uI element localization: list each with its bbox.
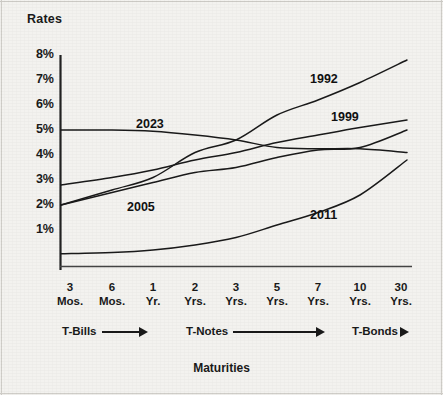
range-arrow-icon <box>399 326 409 338</box>
series-label-2005: 2005 <box>127 200 155 214</box>
instrument-group-label: T-Bills <box>62 325 97 337</box>
x-tick-number: 3 <box>47 280 93 294</box>
x-tick-label: 2Yrs. <box>172 280 218 308</box>
instrument-group-label: T-Bonds <box>352 325 398 337</box>
yield-curve-figure: Rates 8%7%6%5%4%3%2%1% 3Mos.6Mos.1Yr.2Yr… <box>0 0 443 395</box>
x-tick-unit: Yrs. <box>337 294 383 308</box>
x-tick-number: 30 <box>378 280 424 294</box>
x-tick-number: 6 <box>89 280 135 294</box>
series-line-2011 <box>61 160 407 254</box>
x-tick-number: 5 <box>254 280 300 294</box>
x-tick-number: 7 <box>295 280 341 294</box>
x-tick-label: 3Mos. <box>47 280 93 308</box>
x-tick-unit: Yrs. <box>254 294 300 308</box>
x-tick-label: 3Yrs. <box>213 280 259 308</box>
instrument-group-t-bonds: T-Bonds <box>352 325 409 338</box>
series-label-2011: 2011 <box>310 208 337 222</box>
x-tick-unit: Yrs. <box>213 294 259 308</box>
x-tick-unit: Yrs. <box>295 294 341 308</box>
series-label-1999: 1999 <box>331 110 359 124</box>
series-lines <box>61 60 407 254</box>
x-tick-number: 2 <box>172 280 218 294</box>
x-tick-label: 6Mos. <box>89 280 135 308</box>
x-tick-unit: Yrs. <box>172 294 218 308</box>
x-tick-number: 10 <box>337 280 383 294</box>
series-line-1992 <box>61 60 407 205</box>
x-tick-label: 30Yrs. <box>378 280 424 308</box>
instrument-group-label: T-Notes <box>186 325 228 337</box>
instrument-group-t-notes: T-Notes <box>186 325 325 338</box>
x-tick-label: 10Yrs. <box>337 280 383 308</box>
x-tick-label: 5Yrs. <box>254 280 300 308</box>
x-tick-unit: Yr. <box>130 294 176 308</box>
series-label-1992: 1992 <box>310 72 338 86</box>
x-tick-label: 1Yr. <box>130 280 176 308</box>
x-tick-number: 3 <box>213 280 259 294</box>
x-tick-number: 1 <box>130 280 176 294</box>
x-tick-unit: Mos. <box>89 294 135 308</box>
instrument-group-t-bills: T-Bills <box>62 325 148 338</box>
x-tick-unit: Yrs. <box>378 294 424 308</box>
range-arrow-icon <box>102 326 148 338</box>
x-tick-unit: Mos. <box>47 294 93 308</box>
x-axis-title: Maturities <box>0 361 443 375</box>
series-label-2023: 2023 <box>136 117 164 131</box>
range-arrow-icon <box>233 326 325 338</box>
x-tick-label: 7Yrs. <box>295 280 341 308</box>
